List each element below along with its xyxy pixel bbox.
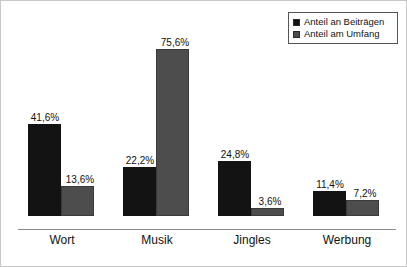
category-label-musik: Musik bbox=[113, 233, 201, 247]
bar-group-wort: 41,6% 13,6% Wort bbox=[18, 0, 106, 247]
bar-wort-anteil-an-beitraegen: 41,6% bbox=[28, 124, 61, 216]
plot-area: 41,6% 13,6% Wort 22,2% 75,6% Musik bbox=[18, 11, 396, 256]
bar-musik-anteil-am-umfang: 75,6% bbox=[156, 49, 189, 216]
bar-value-label: 3,6% bbox=[248, 196, 292, 207]
category-label-wort: Wort bbox=[18, 233, 106, 247]
bar-wort-anteil-am-umfang: 13,6% bbox=[61, 186, 94, 216]
category-label-werbung: Werbung bbox=[303, 233, 391, 247]
bar-value-label: 13,6% bbox=[58, 174, 102, 185]
bar-jingles-anteil-an-beitraegen: 24,8% bbox=[218, 161, 251, 216]
bar-group-werbung: 11,4% 7,2% Werbung bbox=[303, 0, 391, 247]
bar-chart: Anteil an Beiträgen Anteil am Umfang 41,… bbox=[0, 0, 407, 267]
bar-group-musik: 22,2% 75,6% Musik bbox=[113, 0, 201, 247]
bar-value-label: 7,2% bbox=[343, 188, 387, 199]
bar-value-label: 24,8% bbox=[213, 149, 257, 160]
bar-musik-anteil-an-beitraegen: 22,2% bbox=[123, 167, 156, 216]
bar-value-label: 75,6% bbox=[153, 37, 197, 48]
bar-value-label: 41,6% bbox=[23, 112, 67, 123]
bar-werbung-anteil-an-beitraegen: 11,4% bbox=[313, 191, 346, 216]
bar-jingles-anteil-am-umfang: 3,6% bbox=[251, 208, 284, 216]
category-label-jingles: Jingles bbox=[208, 233, 296, 247]
bar-werbung-anteil-am-umfang: 7,2% bbox=[346, 200, 379, 216]
bar-group-jingles: 24,8% 3,6% Jingles bbox=[208, 0, 296, 247]
